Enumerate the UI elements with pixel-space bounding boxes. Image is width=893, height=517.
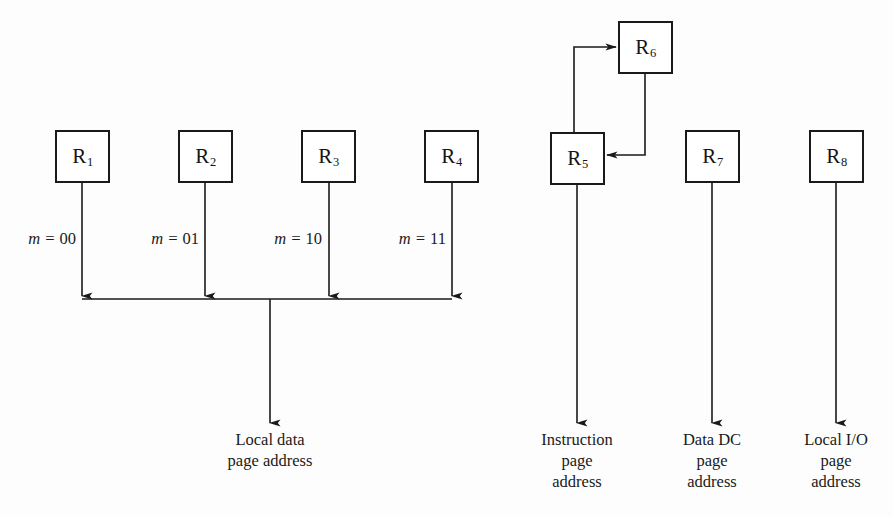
output-line: address [541, 471, 613, 492]
register-label-r2: R2 [195, 146, 216, 167]
mode-label-m10: m = 10 [274, 229, 322, 249]
mode-label-m00: m = 00 [28, 229, 76, 249]
mode-label-m01: m = 01 [151, 229, 199, 249]
register-box-r1[interactable]: R1 [55, 130, 110, 183]
output-line: page [541, 450, 613, 471]
register-box-r3[interactable]: R3 [301, 130, 356, 183]
register-label-r5: R5 [567, 148, 588, 169]
register-box-r4[interactable]: R4 [424, 130, 479, 183]
output-label-local-io-page-address: Local I/O page address [804, 429, 868, 492]
output-label-instruction-page-address: Instruction page address [541, 429, 613, 492]
output-line: Data DC [683, 429, 741, 450]
output-line: page [683, 450, 741, 471]
output-line: address [804, 471, 868, 492]
output-line: page [804, 450, 868, 471]
output-line: Local data [228, 429, 313, 450]
output-label-local-data-page-address: Local data page address [228, 429, 313, 471]
register-box-r2[interactable]: R2 [178, 130, 233, 183]
register-label-r8: R8 [826, 146, 847, 167]
connector-r6-to-r5 [607, 74, 645, 155]
output-line: page address [228, 450, 313, 471]
register-label-r3: R3 [318, 146, 339, 167]
mode-label-m11: m = 11 [399, 229, 446, 249]
output-line: Instruction [541, 429, 613, 450]
register-label-r1: R1 [72, 146, 93, 167]
register-label-r7: R7 [702, 146, 723, 167]
register-box-r8[interactable]: R8 [809, 130, 864, 183]
register-label-r4: R4 [441, 146, 462, 167]
register-box-r5[interactable]: R5 [550, 132, 605, 185]
register-box-r7[interactable]: R7 [685, 130, 740, 183]
register-box-r6[interactable]: R6 [618, 21, 673, 74]
output-line: address [683, 471, 741, 492]
output-line: Local I/O [804, 429, 868, 450]
diagram-root: R1 R2 R3 R4 R5 R6 R7 R8 m = 00 m = 01 m … [0, 0, 893, 517]
diagram-canvas [0, 0, 893, 517]
register-label-r6: R6 [635, 37, 656, 58]
output-label-data-dc-page-address: Data DC page address [683, 429, 741, 492]
connector-r5-to-r6 [574, 47, 616, 132]
